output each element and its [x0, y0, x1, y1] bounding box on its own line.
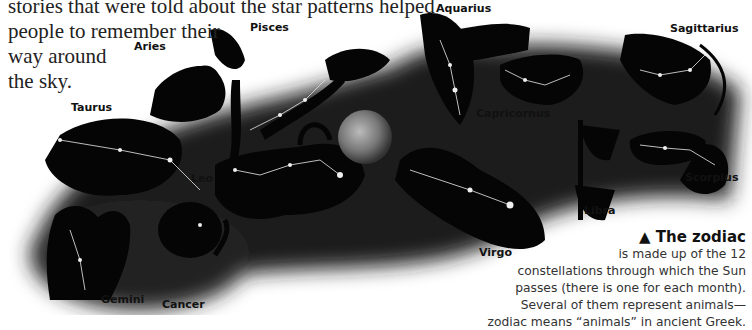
label-leo: Leo	[191, 172, 213, 185]
label-sagittarius: Sagittarius	[670, 22, 739, 35]
caption-title-text: The zodiac	[656, 228, 746, 246]
caption-title: ▲ The zodiac	[416, 229, 746, 246]
caption-line: zodiac means “animals” in ancient Greek.	[416, 314, 746, 330]
label-taurus: Taurus	[71, 101, 112, 114]
intro-line: people to remember their	[8, 19, 435, 44]
caption-line: Several of them represent animals—	[416, 297, 746, 314]
earth-globe-icon	[338, 110, 392, 164]
caption-line: passes (there is one for each month).	[416, 280, 746, 297]
label-scorpius: Scorpius	[685, 171, 738, 184]
intro-line: stories that were told about the star pa…	[8, 0, 435, 19]
intro-line: way around	[8, 44, 435, 69]
caption-line: constellations through which the Sun	[416, 263, 746, 280]
label-aquarius: Aquarius	[436, 2, 491, 15]
label-cancer: Cancer	[162, 298, 205, 311]
label-aries: Aries	[134, 40, 166, 53]
zodiac-caption: ▲ The zodiac is made up of the 12 conste…	[416, 229, 746, 330]
caption-line: is made up of the 12	[416, 246, 746, 263]
up-triangle-icon: ▲	[639, 228, 651, 246]
intro-paragraph: stories that were told about the star pa…	[8, 0, 435, 94]
intro-line: the sky.	[8, 69, 435, 94]
label-libra: Libra	[584, 204, 616, 217]
label-gemini: Gemini	[101, 293, 144, 306]
label-capricornus: Capricornus	[476, 107, 550, 120]
label-pisces: Pisces	[250, 21, 289, 34]
